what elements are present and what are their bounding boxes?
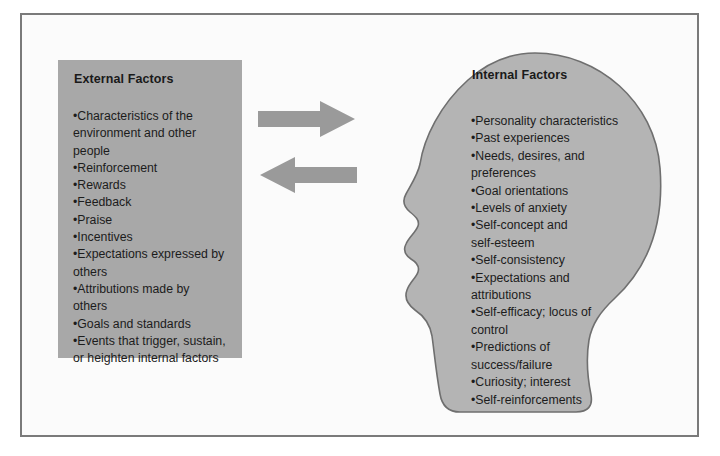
list-item: •Levels of anxiety bbox=[471, 200, 646, 217]
list-item: self-esteem bbox=[471, 235, 646, 252]
list-item: •Attributions made by bbox=[73, 281, 233, 298]
list-item: •Praise bbox=[73, 212, 233, 229]
list-item: •Self-consistency bbox=[471, 252, 646, 269]
external-factors-box: External Factors •Characteristics of the… bbox=[58, 60, 242, 358]
list-item: •Events that trigger, sustain, bbox=[73, 333, 233, 350]
internal-factors-list: •Personality characteristics •Past exper… bbox=[471, 113, 646, 409]
arrow-external-to-internal-icon bbox=[258, 101, 355, 137]
list-item: or heighten internal factors bbox=[73, 350, 233, 367]
list-item: preferences bbox=[471, 165, 646, 182]
list-item: others bbox=[73, 298, 233, 315]
list-item: •Expectations and bbox=[471, 270, 646, 287]
list-item: •Rewards bbox=[73, 177, 233, 194]
external-factors-title: External Factors bbox=[74, 72, 174, 86]
list-item: •Goals and standards bbox=[73, 316, 233, 333]
list-item: environment and other bbox=[73, 125, 233, 142]
list-item: •Self-efficacy; locus of bbox=[471, 304, 646, 321]
list-item: •Feedback bbox=[73, 194, 233, 211]
list-item: others bbox=[73, 264, 233, 281]
list-item: •Curiosity; interest bbox=[471, 374, 646, 391]
diagram-canvas: External Factors •Characteristics of the… bbox=[0, 0, 720, 456]
list-item: •Past experiences bbox=[471, 130, 646, 147]
list-item: success/failure bbox=[471, 357, 646, 374]
list-item: •Self-reinforcements bbox=[471, 392, 646, 409]
list-item: •Needs, desires, and bbox=[471, 148, 646, 165]
list-item: •Characteristics of the bbox=[73, 108, 233, 125]
list-item: control bbox=[471, 322, 646, 339]
arrow-internal-to-external-icon bbox=[260, 157, 357, 193]
list-item: attributions bbox=[471, 287, 646, 304]
list-item: •Expectations expressed by bbox=[73, 246, 233, 263]
list-item: •Self-concept and bbox=[471, 217, 646, 234]
arrow-group bbox=[250, 95, 365, 195]
external-factors-list: •Characteristics of the environment and … bbox=[73, 108, 233, 367]
list-item: people bbox=[73, 143, 233, 160]
list-item: •Incentives bbox=[73, 229, 233, 246]
list-item: •Predictions of bbox=[471, 339, 646, 356]
list-item: •Personality characteristics bbox=[471, 113, 646, 130]
list-item: •Reinforcement bbox=[73, 160, 233, 177]
list-item: •Goal orientations bbox=[471, 183, 646, 200]
internal-factors-title: Internal Factors bbox=[472, 68, 567, 82]
